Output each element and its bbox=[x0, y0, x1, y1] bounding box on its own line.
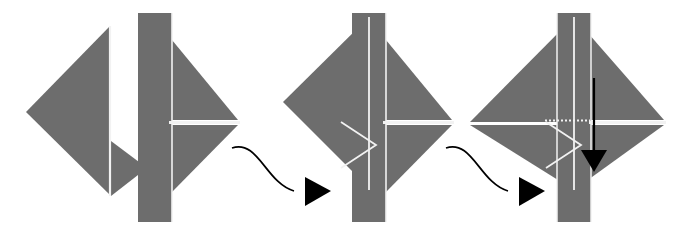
fold-diagram-svg bbox=[0, 0, 679, 235]
fold-diagram-canvas: Paper folding sequence bbox=[0, 0, 679, 235]
step2-vertical-strip bbox=[138, 13, 172, 222]
